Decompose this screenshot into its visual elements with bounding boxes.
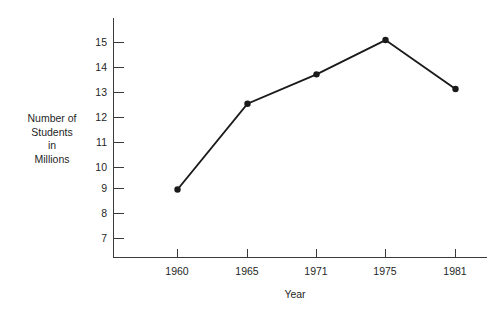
y-axis-tick-labels: 15 14 13 12 11 10 9 8 7 (95, 36, 107, 244)
data-point-1971 (313, 71, 319, 77)
series-markers (174, 37, 458, 193)
x-tick-label-1965: 1965 (235, 265, 259, 277)
y-tick-label-11: 11 (96, 136, 107, 148)
series-line-students (178, 40, 456, 189)
y-tick-label-14: 14 (95, 61, 107, 73)
x-tick-label-1975: 1975 (373, 265, 397, 277)
line-chart: Number of Students in Millions 15 14 13 … (0, 0, 502, 310)
data-point-1960 (174, 186, 180, 192)
data-point-1975 (382, 37, 388, 43)
x-axis-tick-labels: 1960 1965 1971 1975 1981 (165, 265, 467, 277)
y-tick-label-13: 13 (95, 86, 107, 98)
data-point-1965 (244, 101, 250, 107)
y-tick-label-8: 8 (101, 207, 107, 219)
y-tick-label-15: 15 (95, 36, 107, 48)
y-tick-label-7: 7 (101, 232, 107, 244)
y-tick-label-9: 9 (101, 182, 107, 194)
x-tick-label-1971: 1971 (304, 265, 328, 277)
x-axis-title: Year (284, 288, 306, 300)
y-axis-ticks (114, 43, 124, 239)
x-tick-label-1981: 1981 (443, 265, 467, 277)
x-axis-ticks (178, 249, 456, 257)
x-tick-label-1960: 1960 (165, 265, 189, 277)
data-point-1981 (452, 86, 458, 92)
y-tick-label-10: 10 (95, 161, 107, 173)
plot-area: 15 14 13 12 11 10 9 8 7 1960 1965 1971 1… (0, 0, 502, 310)
y-tick-label-12: 12 (95, 111, 107, 123)
